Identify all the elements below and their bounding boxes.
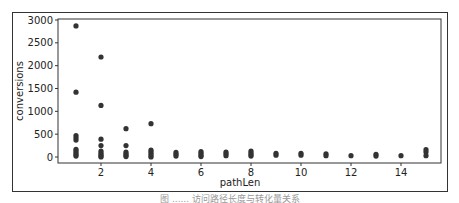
data-point — [98, 137, 103, 142]
y-tick-label: 500 — [34, 129, 53, 140]
y-tick-label: 2500 — [28, 37, 53, 48]
x-tick-label: 12 — [345, 167, 358, 178]
x-tick-label: 2 — [98, 167, 104, 178]
data-point — [73, 153, 78, 158]
data-point — [148, 121, 153, 126]
x-tick-label: 6 — [198, 167, 204, 178]
data-point — [398, 153, 403, 158]
data-point — [98, 54, 103, 59]
data-point — [98, 154, 103, 159]
y-tick-label: 3000 — [28, 15, 53, 26]
axes-box — [58, 19, 441, 163]
plot-area — [58, 19, 441, 163]
data-points — [73, 23, 428, 159]
y-axis: 050010001500200025003000 — [28, 15, 58, 163]
data-point — [123, 143, 128, 148]
data-point — [348, 153, 353, 158]
x-tick-label: 10 — [295, 167, 308, 178]
data-point — [98, 143, 103, 148]
data-point — [223, 153, 228, 158]
x-axis-label: pathLen — [220, 177, 261, 188]
data-point — [273, 153, 278, 158]
x-axis: 2468101214 — [98, 163, 408, 178]
y-tick-label: 0 — [47, 152, 53, 163]
data-point — [248, 153, 253, 158]
y-tick-label: 1500 — [28, 83, 53, 94]
x-tick-label: 4 — [148, 167, 154, 178]
scatter-chart: 050010001500200025003000 2468101214 path… — [0, 0, 459, 203]
data-point — [73, 138, 78, 143]
data-point — [373, 153, 378, 158]
data-point — [123, 154, 128, 159]
data-point — [123, 126, 128, 131]
data-point — [73, 23, 78, 28]
data-point — [73, 90, 78, 95]
data-point — [98, 103, 103, 108]
data-point — [323, 153, 328, 158]
data-point — [423, 153, 428, 158]
figure-caption: 图 ...... 访问路径长度与转化量关系 — [160, 193, 300, 203]
y-axis-label: conversions — [14, 61, 25, 121]
data-point — [148, 154, 153, 159]
x-tick-label: 14 — [395, 167, 408, 178]
data-point — [173, 153, 178, 158]
y-tick-label: 2000 — [28, 60, 53, 71]
data-point — [298, 153, 303, 158]
y-tick-label: 1000 — [28, 106, 53, 117]
data-point — [198, 154, 203, 159]
